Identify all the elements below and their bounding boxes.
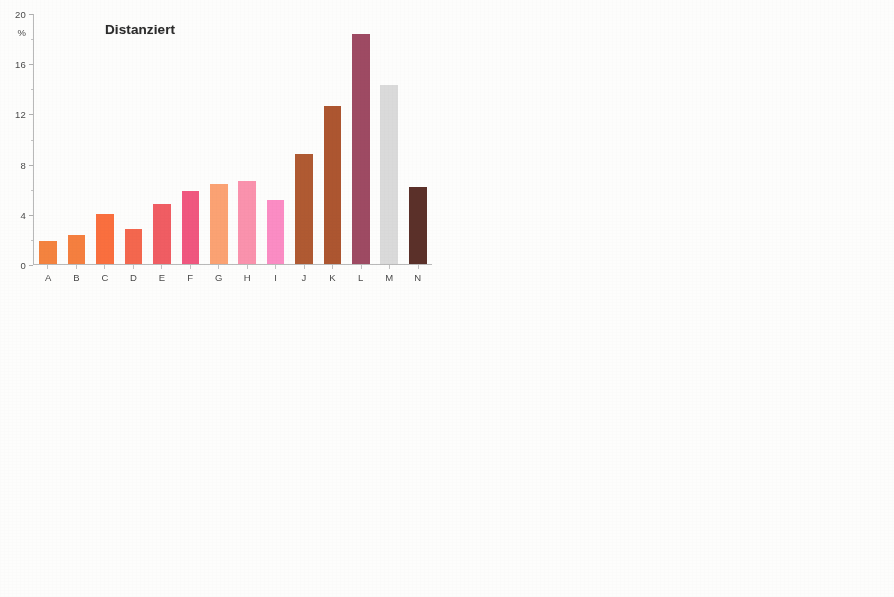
panel-maenner-ueber-50-distanziert: Männer über 50: Distanziert 04812162024%…: [0, 300, 447, 597]
bar-slot: [290, 14, 318, 264]
bar-l[interactable]: [352, 34, 370, 264]
x-axis-label-b: B: [62, 272, 90, 283]
x-axis-tick: [275, 265, 276, 269]
x-axis-label-i: I: [261, 272, 289, 283]
x-axis-labels: ABCDEFGHIJKLMN: [34, 272, 432, 283]
y-axis-minor-tick: [31, 89, 34, 90]
x-axis-tick: [247, 265, 248, 269]
x-axis-label-h: H: [233, 272, 261, 283]
y-axis-tick: [29, 64, 33, 65]
bar-m[interactable]: [380, 85, 398, 264]
x-axis-label-d: D: [119, 272, 147, 283]
y-axis-unit-label: %: [0, 27, 26, 38]
x-axis-label-n: N: [403, 272, 431, 283]
y-axis-tick: [29, 215, 33, 216]
bar-h[interactable]: [238, 181, 256, 264]
plot-area: 048121620%ABCDEFGHIJKLMN: [33, 14, 432, 265]
x-axis-tick: [76, 265, 77, 269]
bar-i[interactable]: [267, 200, 285, 264]
y-axis-tick-label: 0: [0, 260, 26, 271]
y-axis-minor-tick: [31, 240, 34, 241]
bar-slot: [261, 14, 289, 264]
x-axis-tick: [133, 265, 134, 269]
bar-slot: [119, 14, 147, 264]
y-axis-tick: [29, 14, 33, 15]
chart-grid: Distanziert 048121620%ABCDEFGHIJKLMN Fra…: [0, 0, 894, 597]
x-axis-label-m: M: [375, 272, 403, 283]
y-axis-tick: [29, 265, 33, 266]
x-axis-label-a: A: [34, 272, 62, 283]
y-axis-tick-label: 4: [0, 209, 26, 220]
bar-e[interactable]: [153, 204, 171, 264]
bar-slot: [176, 14, 204, 264]
bar-slot: [91, 14, 119, 264]
bar-a[interactable]: [39, 241, 57, 264]
panel-frauen-distanziert: Frauen: Distanziert 048121620%ABCDEFGHIJ…: [447, 0, 894, 300]
x-axis-tick: [389, 265, 390, 269]
x-axis-label-j: J: [290, 272, 318, 283]
x-axis-tick: [361, 265, 362, 269]
panel-distanziert: Distanziert 048121620%ABCDEFGHIJKLMN: [0, 0, 447, 300]
x-axis-tick: [218, 265, 219, 269]
x-axis-tick: [161, 265, 162, 269]
x-axis-label-k: K: [318, 272, 346, 283]
bar-slot: [375, 14, 403, 264]
bar-slot: [34, 14, 62, 264]
y-axis-tick-label: 20: [0, 9, 26, 20]
y-axis-tick-label: 12: [0, 109, 26, 120]
panel-frauen-ueber-50-distanziert: Frauen über 50: Distanziert 04812162024%…: [447, 300, 894, 597]
x-axis-label-e: E: [148, 272, 176, 283]
x-axis-tick: [418, 265, 419, 269]
x-axis-label-c: C: [91, 272, 119, 283]
x-axis-tick: [47, 265, 48, 269]
bar-d[interactable]: [125, 229, 143, 264]
bar-slot: [148, 14, 176, 264]
x-axis-tick: [304, 265, 305, 269]
y-axis-minor-tick: [31, 190, 34, 191]
y-axis-minor-tick: [31, 39, 34, 40]
x-axis-line: [33, 264, 432, 265]
bar-b[interactable]: [68, 235, 86, 264]
bar-slot: [347, 14, 375, 264]
bar-j[interactable]: [295, 154, 313, 264]
y-axis-tick: [29, 165, 33, 166]
bar-slot: [403, 14, 431, 264]
y-axis-tick-label: 16: [0, 59, 26, 70]
x-axis-tick: [332, 265, 333, 269]
bar-n[interactable]: [409, 187, 427, 264]
y-axis-tick: [29, 114, 33, 115]
y-axis-tick-label: 8: [0, 159, 26, 170]
x-axis-label-f: F: [176, 272, 204, 283]
x-axis-label-l: L: [347, 272, 375, 283]
bar-series: [34, 14, 432, 264]
bar-slot: [62, 14, 90, 264]
bar-slot: [318, 14, 346, 264]
x-axis-label-g: G: [205, 272, 233, 283]
y-axis-minor-tick: [31, 140, 34, 141]
x-axis-tick: [190, 265, 191, 269]
bar-g[interactable]: [210, 184, 228, 264]
bar-f[interactable]: [182, 191, 200, 264]
bar-k[interactable]: [324, 106, 342, 264]
bar-slot: [205, 14, 233, 264]
bar-slot: [233, 14, 261, 264]
x-axis-tick: [104, 265, 105, 269]
bar-c[interactable]: [96, 214, 114, 264]
